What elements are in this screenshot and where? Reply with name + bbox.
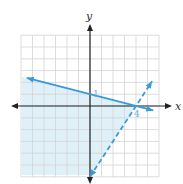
y-intercept-label: 1 <box>93 89 99 99</box>
x-axis-left-arrow-icon <box>11 103 18 109</box>
inequality-graph: x y 1 4 <box>0 0 183 184</box>
x-intercept-label: 4 <box>134 109 140 119</box>
y-axis-label: y <box>85 10 93 23</box>
y-axis-up-arrow-icon <box>87 24 93 31</box>
y-axis-down-arrow-icon <box>87 177 93 184</box>
x-axis-right-arrow-icon <box>165 103 172 109</box>
x-axis-label: x <box>175 100 182 113</box>
